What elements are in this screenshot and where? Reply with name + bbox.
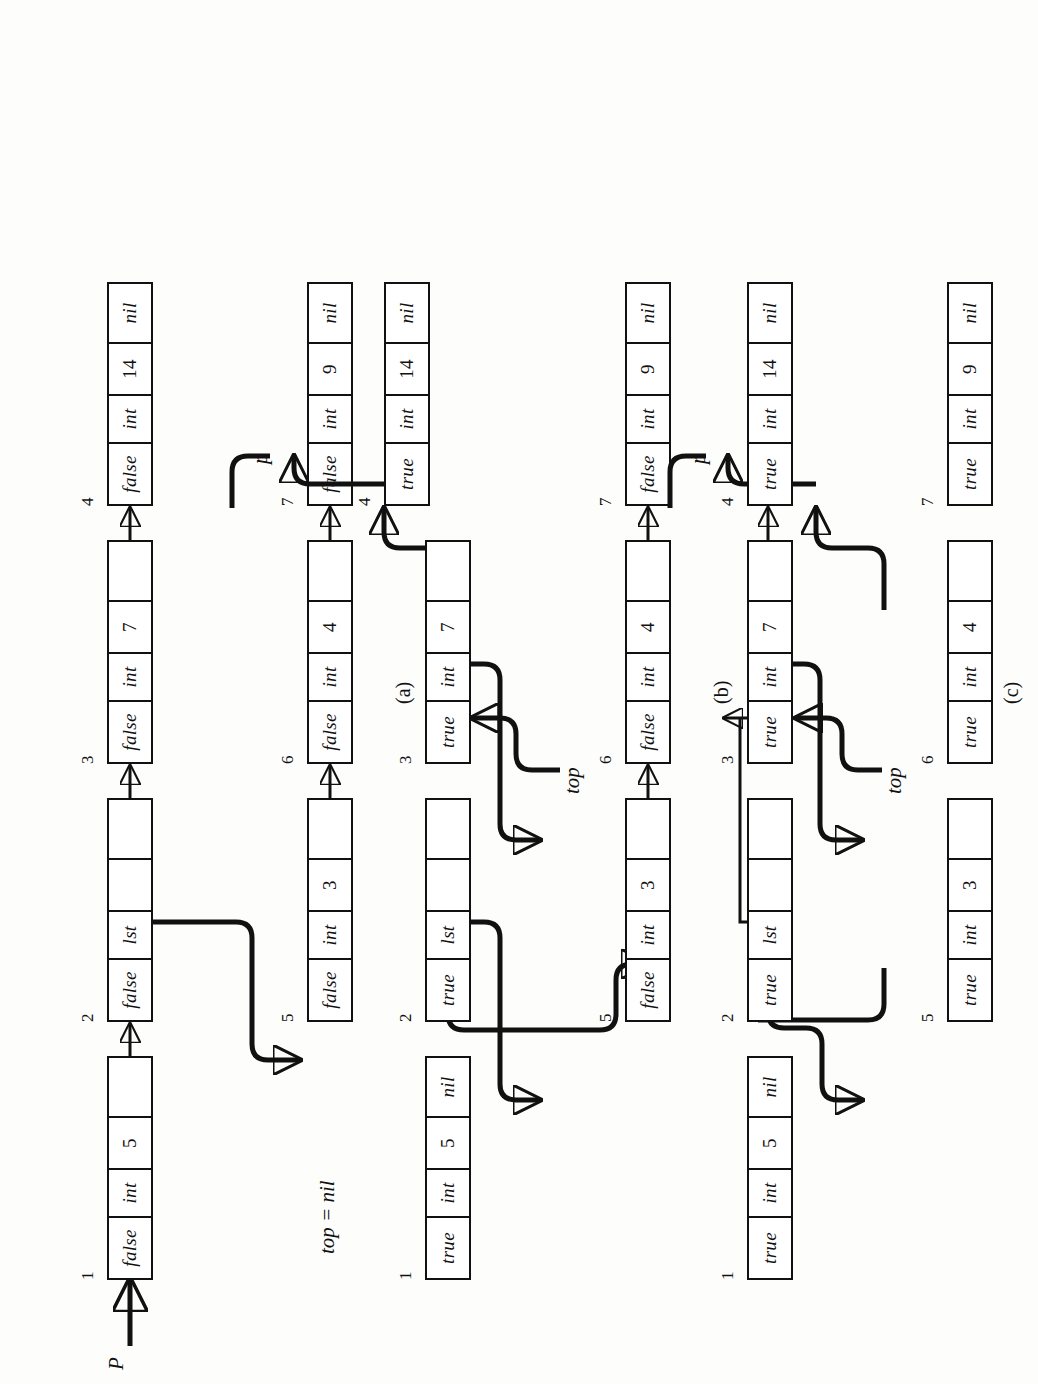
- panel-c-node-3: true int 7: [747, 540, 793, 764]
- link-cell: [309, 542, 351, 600]
- panel-c-pointer-p-label: p: [686, 454, 711, 465]
- type-cell: int: [427, 652, 469, 700]
- panel-c-node-1: true int 5 nil: [747, 1056, 793, 1280]
- mark-cell: true: [386, 442, 428, 504]
- link-cell: [949, 542, 991, 600]
- panel-b-node-4-index: 4: [355, 498, 375, 507]
- panel-c-node-3-index: 3: [718, 756, 738, 765]
- value-cell: [109, 858, 151, 910]
- value-cell: 7: [109, 600, 151, 652]
- value-cell: 14: [386, 342, 428, 394]
- link-cell: [427, 800, 469, 858]
- panel-b-node-5: false int 3: [625, 798, 671, 1022]
- type-cell: int: [309, 652, 351, 700]
- value-cell: [427, 858, 469, 910]
- link-cell: nil: [749, 1058, 791, 1116]
- value-cell: 14: [109, 342, 151, 394]
- panel-a-node-4-index: 4: [78, 498, 98, 507]
- type-cell: int: [949, 910, 991, 958]
- value-cell: 9: [627, 342, 669, 394]
- panel-a-node-6-index: 6: [278, 756, 298, 765]
- value-cell: 3: [627, 858, 669, 910]
- link-cell: nil: [309, 284, 351, 342]
- value-cell: 9: [949, 342, 991, 394]
- panel-c-node-5-index: 5: [918, 1014, 938, 1023]
- value-cell: 3: [309, 858, 351, 910]
- link-cell: [109, 800, 151, 858]
- mark-cell: true: [427, 700, 469, 762]
- panel-c-label: (c): [1000, 682, 1023, 704]
- value-cell: [749, 858, 791, 910]
- mark-cell: true: [949, 958, 991, 1020]
- type-cell: int: [627, 394, 669, 442]
- link-cell: [427, 542, 469, 600]
- panel-b-node-6-index: 6: [596, 756, 616, 765]
- type-cell: lst: [427, 910, 469, 958]
- value-cell: 7: [427, 600, 469, 652]
- value-cell: 5: [749, 1116, 791, 1168]
- panel-c-node-7: true int 9 nil: [947, 282, 993, 506]
- figure-canvas: P 1 false int 5 2 false lst 3 false int …: [0, 0, 1038, 1384]
- type-cell: int: [749, 652, 791, 700]
- panel-c-node-4-index: 4: [718, 498, 738, 507]
- panel-b-node-5-index: 5: [596, 1014, 616, 1023]
- link-cell: nil: [109, 284, 151, 342]
- mark-cell: false: [309, 700, 351, 762]
- panel-b-node-7-index: 7: [596, 498, 616, 507]
- mark-cell: true: [949, 442, 991, 504]
- mark-cell: true: [749, 958, 791, 1020]
- mark-cell: false: [109, 700, 151, 762]
- panel-c-connectors: [0, 0, 1038, 1384]
- mark-cell: true: [949, 700, 991, 762]
- type-cell: int: [627, 652, 669, 700]
- mark-cell: false: [109, 442, 151, 504]
- value-cell: 4: [309, 600, 351, 652]
- panel-c-node-2-index: 2: [718, 1014, 738, 1023]
- mark-cell: true: [427, 958, 469, 1020]
- panel-a-top-nil-note: top = nil: [315, 1180, 340, 1254]
- type-cell: int: [949, 652, 991, 700]
- panel-b-node-3: true int 7: [425, 540, 471, 764]
- link-cell: [309, 800, 351, 858]
- link-cell: [949, 800, 991, 858]
- value-cell: 9: [309, 342, 351, 394]
- type-cell: int: [109, 1168, 151, 1216]
- panel-c-node-5: true int 3: [947, 798, 993, 1022]
- type-cell: lst: [109, 910, 151, 958]
- panel-b-pointer-top-label: top: [560, 767, 585, 794]
- panel-a-label: (a): [392, 682, 415, 704]
- mark-cell: false: [309, 958, 351, 1020]
- type-cell: lst: [749, 910, 791, 958]
- mark-cell: false: [627, 442, 669, 504]
- mark-cell: true: [749, 700, 791, 762]
- type-cell: int: [109, 394, 151, 442]
- panel-a-node-4: false int 14 nil: [107, 282, 153, 506]
- value-cell: 14: [749, 342, 791, 394]
- mark-cell: true: [749, 442, 791, 504]
- panel-a-node-1-index: 1: [78, 1272, 98, 1281]
- mark-cell: false: [627, 700, 669, 762]
- mark-cell: false: [109, 1216, 151, 1278]
- panel-a-connectors: [0, 0, 1038, 1384]
- panel-b-node-2-index: 2: [396, 1014, 416, 1023]
- panel-b-label: (b): [710, 681, 733, 704]
- link-cell: [749, 542, 791, 600]
- panel-a-node-7: false int 9 nil: [307, 282, 353, 506]
- panel-a-node-5: false int 3: [307, 798, 353, 1022]
- value-cell: 7: [749, 600, 791, 652]
- panel-c-node-4: true int 14 nil: [747, 282, 793, 506]
- link-cell: [627, 542, 669, 600]
- panel-b-node-7: false int 9 nil: [625, 282, 671, 506]
- panel-b-node-6: false int 4: [625, 540, 671, 764]
- mark-cell: false: [627, 958, 669, 1020]
- link-cell: [749, 800, 791, 858]
- link-cell: nil: [949, 284, 991, 342]
- panel-a-node-1: false int 5: [107, 1056, 153, 1280]
- type-cell: int: [309, 910, 351, 958]
- panel-c-node-1-index: 1: [718, 1272, 738, 1281]
- link-cell: [627, 800, 669, 858]
- type-cell: int: [427, 1168, 469, 1216]
- mark-cell: true: [427, 1216, 469, 1278]
- type-cell: int: [749, 1168, 791, 1216]
- panel-a-node-2-index: 2: [78, 1014, 98, 1023]
